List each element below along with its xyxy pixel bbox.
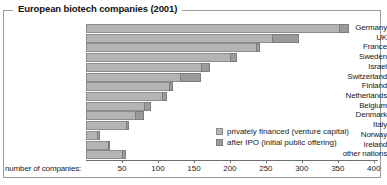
chart-bar-row: Germany <box>0 24 387 33</box>
stacked-bar[interactable] <box>86 150 126 159</box>
bar-segment-private <box>86 63 201 72</box>
bar-segment-ipo <box>256 43 260 52</box>
bar-segment-ipo <box>108 141 111 150</box>
bar-segment-private <box>86 43 256 52</box>
stacked-bar[interactable] <box>86 73 201 82</box>
bar-segment-ipo <box>97 131 100 140</box>
stacked-bar[interactable] <box>86 131 100 140</box>
x-axis-line <box>86 160 378 161</box>
legend-item-ipo: after IPO (initial public offering) <box>216 137 349 148</box>
chart-plot-area: GermanyUKFranceSwedenIsraelSwitzerlandFi… <box>0 0 387 185</box>
bar-segment-ipo <box>162 92 167 101</box>
legend-swatch-ipo-icon <box>216 139 223 146</box>
chart-bar-row: Finland <box>0 82 387 91</box>
bar-segment-private <box>86 102 144 111</box>
chart-bar-row: UK <box>0 34 387 43</box>
stacked-bar[interactable] <box>86 24 349 33</box>
legend-label-private: privately financed (venture capital) <box>227 127 349 136</box>
stacked-bar[interactable] <box>86 141 110 150</box>
stacked-bar[interactable] <box>86 53 237 62</box>
chart-bar-row: Switzerland <box>0 73 387 82</box>
bar-segment-private <box>86 141 108 150</box>
bar-segment-ipo <box>339 24 348 33</box>
chart-bar-row: Denmark <box>0 111 387 120</box>
bar-segment-ipo <box>135 111 144 120</box>
stacked-bar[interactable] <box>86 82 173 91</box>
bar-segment-ipo <box>230 53 237 62</box>
bar-segment-ipo <box>180 73 202 82</box>
bar-segment-ipo <box>126 121 130 130</box>
bar-segment-ipo <box>201 63 210 72</box>
y-axis-label: Netherlands <box>303 91 387 100</box>
x-axis-tick-label: 400 <box>367 164 380 173</box>
bar-segment-private <box>86 34 272 43</box>
x-axis-tick-label: 50 <box>118 164 127 173</box>
bar-segment-ipo <box>272 34 299 43</box>
stacked-bar[interactable] <box>86 102 151 111</box>
x-axis-tick-label: 350 <box>331 164 344 173</box>
y-axis-label: other nations <box>303 149 387 158</box>
legend-label-ipo: after IPO (initial public offering) <box>227 138 337 147</box>
chart-bar-row: Netherlands <box>0 92 387 101</box>
bar-segment-ipo <box>122 150 126 159</box>
y-axis-label: UK <box>303 33 387 42</box>
bar-segment-ipo <box>144 102 151 111</box>
bar-segment-private <box>86 92 162 101</box>
x-axis-tick-label: 150 <box>187 164 200 173</box>
y-axis-label: Belgium <box>303 101 387 110</box>
bar-segment-private <box>86 121 126 130</box>
x-axis-tick-label: 300 <box>295 164 308 173</box>
stacked-bar[interactable] <box>86 43 260 52</box>
y-axis-label: Sweden <box>303 52 387 61</box>
chart-bar-row: Sweden <box>0 53 387 62</box>
x-axis-tick-label: 100 <box>151 164 164 173</box>
chart-bar-row: Belgium <box>0 102 387 111</box>
y-axis-label: Finland <box>303 81 387 90</box>
stacked-bar[interactable] <box>86 92 167 101</box>
chart-bar-row: France <box>0 43 387 52</box>
y-axis-label: France <box>303 42 387 51</box>
bar-segment-private <box>86 73 180 82</box>
chart-bar-row: Israel <box>0 63 387 72</box>
y-axis-label: Israel <box>303 62 387 71</box>
bar-segment-private <box>86 111 135 120</box>
x-axis-tick-label: 250 <box>259 164 272 173</box>
bar-segment-private <box>86 150 122 159</box>
x-axis-tick-label: 200 <box>223 164 236 173</box>
chart-legend: privately financed (venture capital) aft… <box>216 126 349 148</box>
x-axis-title: number of companies: <box>5 164 81 173</box>
bar-segment-private <box>86 82 169 91</box>
legend-item-private: privately financed (venture capital) <box>216 126 349 137</box>
chart-bar-row: other nations <box>0 150 387 159</box>
bar-segment-private <box>86 53 230 62</box>
stacked-bar[interactable] <box>86 63 210 72</box>
stacked-bar[interactable] <box>86 111 144 120</box>
stacked-bar[interactable] <box>86 34 299 43</box>
y-axis-label: Switzerland <box>303 72 387 81</box>
y-axis-label: Denmark <box>303 110 387 119</box>
legend-swatch-private-icon <box>216 128 223 135</box>
bar-segment-private <box>86 131 97 140</box>
bar-segment-private <box>86 24 339 33</box>
bar-segment-ipo <box>169 82 173 91</box>
stacked-bar[interactable] <box>86 121 129 130</box>
